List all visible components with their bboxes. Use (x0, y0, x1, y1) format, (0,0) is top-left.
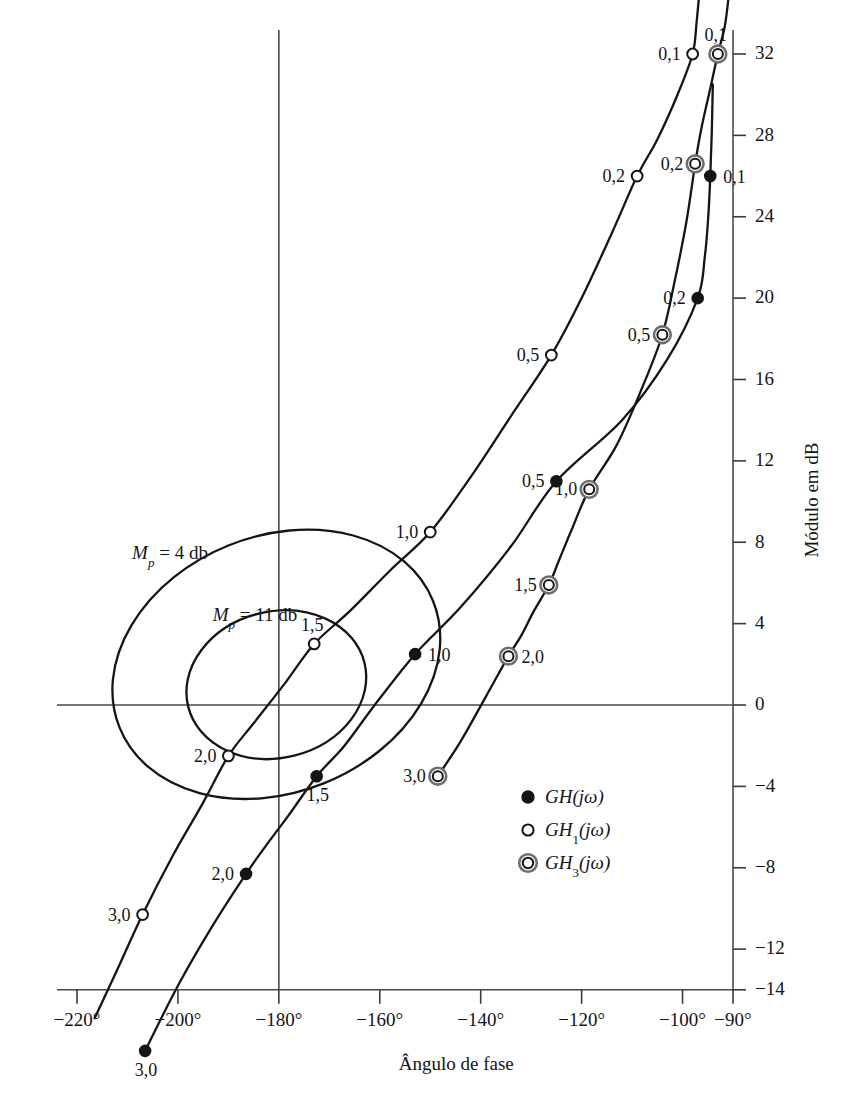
y-axis-tick-label: −14 (755, 978, 785, 999)
data-point-marker (540, 577, 557, 594)
x-axis-tick-label: −220° (54, 1009, 101, 1030)
data-point-marker (692, 293, 703, 304)
x-axis-tick-label: −180° (255, 1009, 302, 1030)
data-point-label: 2,0 (521, 647, 544, 667)
data-point-marker (309, 639, 320, 650)
data-point-label: 0,1 (723, 167, 746, 187)
data-point-marker (546, 350, 557, 361)
y-axis-tick-label: 8 (755, 531, 765, 552)
data-point-label: 1,5 (306, 785, 329, 805)
y-axis-tick-label: 16 (755, 368, 774, 389)
data-point-label: 3,0 (108, 905, 131, 925)
data-point-marker (137, 909, 148, 920)
data-point-marker (709, 46, 726, 63)
data-point-label: 0,1 (705, 25, 728, 45)
data-point-label: 1,5 (514, 575, 537, 595)
data-point-label: 0,5 (517, 345, 540, 365)
y-axis-tick-label: 4 (755, 612, 765, 633)
data-point-label: 0,2 (603, 166, 626, 186)
legend-label: GH(jω) (545, 786, 604, 808)
data-point-label: 3,0 (403, 766, 426, 786)
data-point-marker (705, 170, 716, 181)
data-point-marker (409, 649, 420, 660)
y-axis-tick-label: 24 (755, 205, 775, 226)
data-point-marker (429, 768, 446, 785)
y-axis-tick-label: −4 (755, 775, 776, 796)
y-axis-tick-label: 0 (755, 693, 765, 714)
data-point-marker (687, 49, 698, 60)
y-axis-tick-label: −8 (755, 856, 775, 877)
data-point-marker (240, 868, 251, 879)
data-point-marker (425, 527, 436, 538)
x-axis-tick-label: −140° (457, 1009, 504, 1030)
x-axis-tick-label: −90° (714, 1009, 751, 1030)
legend-group: GH(jω)GH1(jω)GH3(jω) (519, 786, 610, 880)
data-point-label: 0,2 (661, 154, 684, 174)
data-point-label: 1,0 (555, 479, 578, 499)
data-point-marker (140, 1045, 151, 1056)
y-axis-title: Módulo em dB (801, 442, 822, 557)
data-point-label: 2,0 (212, 864, 235, 884)
data-point-label: 1,0 (428, 645, 451, 665)
x-axis-tick-label: −100° (659, 1009, 706, 1030)
data-point-label: 1,0 (396, 522, 419, 542)
x-axis-title: Ângulo de fase (399, 1053, 514, 1074)
data-point-label: 0,2 (663, 288, 686, 308)
data-point-label: 0,1 (658, 44, 681, 64)
data-point-marker (223, 750, 234, 761)
chart-background (0, 0, 856, 1107)
data-point-marker (500, 648, 517, 665)
y-axis-tick-label: 12 (755, 449, 774, 470)
y-axis-tick-label: 28 (755, 124, 774, 145)
data-point-label: 2,0 (194, 746, 217, 766)
data-point-marker (311, 771, 322, 782)
data-point-marker (687, 155, 704, 172)
nichols-chart-svg: 322824201612840−4−8−12−14−220°−200°−180°… (0, 0, 856, 1107)
data-point-label: 3,0 (135, 1060, 158, 1080)
data-point-label: 0,5 (522, 471, 545, 491)
data-point-label: 1,5 (301, 615, 324, 635)
y-axis-tick-label: 20 (755, 286, 774, 307)
nichols-chart-figure: 322824201612840−4−8−12−14−220°−200°−180°… (0, 0, 856, 1107)
y-axis-tick-label: −12 (755, 937, 785, 958)
x-axis-tick-label: −160° (356, 1009, 403, 1030)
data-point-marker (581, 481, 598, 498)
y-axis-tick-label: 32 (755, 42, 774, 63)
data-point-marker (654, 326, 671, 343)
x-axis-tick-label: −120° (558, 1009, 605, 1030)
data-point-marker (632, 171, 643, 182)
data-point-label: 0,5 (628, 325, 651, 345)
